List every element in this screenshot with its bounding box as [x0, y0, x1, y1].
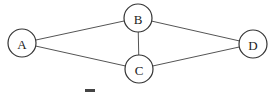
node-label: D: [248, 38, 257, 53]
node-label: C: [135, 63, 144, 78]
node-b: B: [124, 4, 152, 32]
node-label: A: [17, 37, 27, 52]
node-a: A: [8, 29, 36, 57]
edge-a-c: [36, 46, 126, 66]
edge-b-d: [152, 21, 240, 41]
node-d: D: [239, 30, 267, 58]
cropped-caption-mark: [85, 89, 95, 92]
node-label: B: [134, 12, 143, 27]
edge-c-d: [153, 47, 240, 66]
edge-a-b: [36, 21, 125, 40]
nodes: ABCD: [8, 4, 267, 83]
graph-svg: ABCD: [0, 0, 274, 92]
graph-diagram: ABCD: [0, 0, 274, 92]
node-c: C: [125, 55, 153, 83]
